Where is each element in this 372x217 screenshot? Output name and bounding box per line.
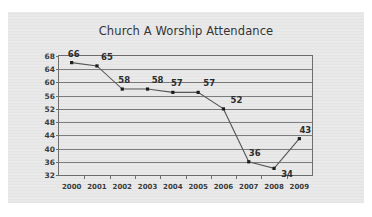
- data-point-label: 34: [281, 169, 293, 179]
- x-axis-tick-label: 2001: [87, 183, 106, 191]
- y-axis-tick-label: 40: [45, 144, 55, 153]
- data-point-marker: [247, 160, 250, 163]
- x-axis-tick-mark: [211, 175, 212, 179]
- x-axis-tick-label: 2008: [264, 183, 283, 191]
- y-axis-tick-label: 48: [45, 118, 55, 127]
- x-axis-tick-mark: [261, 175, 262, 179]
- data-point-label: 57: [203, 78, 215, 88]
- x-axis-tick-label: 2009: [290, 183, 309, 191]
- y-axis-tick-label: 68: [45, 52, 55, 61]
- y-axis-tick-label: 56: [45, 91, 55, 100]
- data-point-marker: [121, 87, 124, 90]
- x-axis-tick-mark: [186, 175, 187, 179]
- data-point-marker: [70, 61, 73, 64]
- y-axis-tick-label: 36: [45, 157, 55, 166]
- data-point-label: 58: [152, 75, 164, 85]
- y-axis-tick-label: 64: [45, 65, 55, 74]
- x-axis-tick-label: 2005: [188, 183, 207, 191]
- data-point-label: 58: [118, 75, 130, 85]
- data-point-marker: [222, 107, 225, 110]
- x-axis-tick-label: 2003: [138, 183, 157, 191]
- series-markers: [70, 61, 301, 170]
- y-axis-tick-label: 32: [45, 171, 55, 180]
- data-point-label: 65: [101, 52, 113, 62]
- data-point-label: 57: [171, 78, 183, 88]
- x-axis-tick-label: 2007: [239, 183, 258, 191]
- y-axis-tick-label: 44: [45, 131, 55, 140]
- x-axis-tick-mark: [160, 175, 161, 179]
- x-axis-tick-label: 2002: [113, 183, 132, 191]
- y-axis-tick-mark: [56, 175, 59, 176]
- x-axis-tick-mark: [236, 175, 237, 179]
- data-point-marker: [197, 91, 200, 94]
- x-axis-tick-label: 2004: [163, 183, 182, 191]
- data-point-label: 43: [299, 125, 311, 135]
- y-axis-tick-label: 60: [45, 78, 55, 87]
- chart-title: Church A Worship Attendance: [8, 24, 364, 38]
- data-point-label: 66: [68, 49, 80, 59]
- chart-screenshot: Church A Worship Attendance 686460565248…: [0, 0, 372, 217]
- chart-card: Church A Worship Attendance 686460565248…: [8, 12, 364, 203]
- data-point-label: 52: [231, 95, 243, 105]
- data-point-marker: [171, 91, 174, 94]
- line-series-svg: [59, 56, 312, 175]
- y-axis-tick-label: 52: [45, 104, 55, 113]
- x-axis-tick-mark: [110, 175, 111, 179]
- data-point-marker: [298, 137, 301, 140]
- x-axis-tick-mark: [84, 175, 85, 179]
- series-line: [72, 63, 300, 169]
- plot-area: 68646056524844403632 2000200120022003200…: [58, 55, 313, 176]
- data-point-marker: [146, 87, 149, 90]
- data-point-label: 36: [249, 148, 261, 158]
- x-axis-tick-label: 2000: [62, 183, 81, 191]
- x-axis-tick-label: 2006: [214, 183, 233, 191]
- x-axis-tick-mark: [135, 175, 136, 179]
- data-point-marker: [95, 64, 98, 67]
- data-point-marker: [272, 167, 275, 170]
